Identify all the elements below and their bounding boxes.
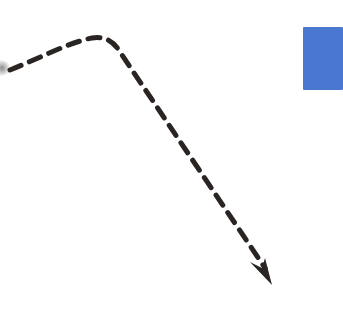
dashed-arrow-path bbox=[10, 38, 265, 268]
blue-rectangle bbox=[303, 27, 343, 90]
arrowhead-icon bbox=[250, 258, 272, 285]
